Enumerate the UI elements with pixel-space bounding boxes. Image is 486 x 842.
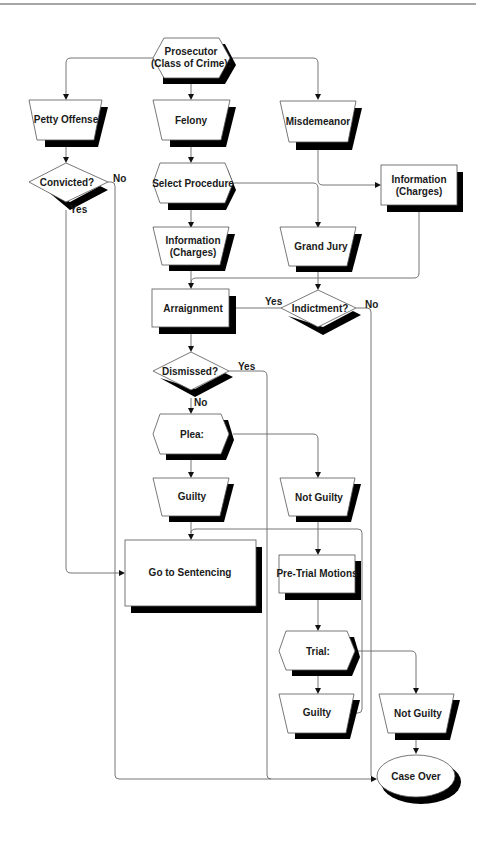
node-trial[interactable]: Trial: xyxy=(279,631,360,676)
node-case-over[interactable]: Case Over xyxy=(377,755,461,804)
edge-plea-notguilty xyxy=(233,434,318,476)
arrowhead xyxy=(188,472,194,478)
arrowhead xyxy=(188,283,194,289)
node-prosecutor[interactable]: Prosecutor (Class of Crime): xyxy=(151,38,236,84)
node-label: Plea: xyxy=(180,429,204,440)
node-label: Guilty xyxy=(178,491,207,502)
node-felony[interactable]: Felony xyxy=(153,100,236,147)
arrowhead xyxy=(375,182,381,188)
edge-label-dismissed-no: No xyxy=(194,397,207,408)
node-label: Arraignment xyxy=(163,303,223,314)
node-label: Information xyxy=(392,174,447,185)
edge-prosecutor-petty xyxy=(66,58,153,98)
arrowhead xyxy=(188,408,194,414)
node-label: Prosecutor xyxy=(165,46,218,57)
node-plea[interactable]: Plea: xyxy=(153,414,234,460)
node-not-guilty-plea[interactable]: Not Guilty xyxy=(280,478,361,522)
arrowhead xyxy=(315,688,321,694)
node-misdemeanor[interactable]: Misdemeanor xyxy=(280,101,362,150)
node-label: Select Procedure xyxy=(152,178,234,189)
node-petty-offense[interactable]: Petty Offense xyxy=(29,100,108,147)
arrowhead xyxy=(315,472,321,478)
node-label: Misdemeanor xyxy=(286,116,351,127)
edge-misdemeanor-inforight xyxy=(318,150,379,185)
flowchart-canvas: Prosecutor (Class of Crime): Petty Offen… xyxy=(0,0,486,842)
node-label: Case Over xyxy=(391,771,441,782)
edge-indictment-caseover xyxy=(356,308,375,779)
node-label: Convicted? xyxy=(40,177,94,188)
edge-prosecutor-misdemeanor xyxy=(230,58,318,98)
edge-label-dismissed-yes: Yes xyxy=(238,361,256,372)
arrowhead xyxy=(371,776,377,782)
arrowhead xyxy=(188,534,194,540)
node-select-procedure[interactable]: Select Procedure xyxy=(152,163,236,210)
node-label: Not Guilty xyxy=(295,492,343,503)
edge-label-convicted-yes: Yes xyxy=(70,204,88,215)
edge-label-indictment-no: No xyxy=(365,299,378,310)
arrowhead xyxy=(315,625,321,631)
node-label: Go to Sentencing xyxy=(149,567,232,578)
node-dismissed[interactable]: Dismissed? xyxy=(153,352,233,397)
arrowhead xyxy=(188,157,194,163)
rectangle-shape xyxy=(381,165,457,205)
arrowhead xyxy=(188,94,194,100)
node-information-right[interactable]: Information (Charges) xyxy=(381,165,463,212)
node-label: Dismissed? xyxy=(162,366,218,377)
node-label: Not Guilty xyxy=(394,708,442,719)
node-label: Indictment? xyxy=(292,303,349,314)
arrowhead xyxy=(413,748,419,754)
node-label: Guilty xyxy=(303,707,332,718)
node-label: Pre-Trial Motions xyxy=(276,568,358,579)
node-arraignment[interactable]: Arraignment xyxy=(152,289,236,334)
edge-label-convicted-no: No xyxy=(113,173,126,184)
node-label: Petty Offense xyxy=(34,114,99,125)
node-label: (Charges) xyxy=(396,186,443,197)
node-not-guilty-trial[interactable]: Not Guilty xyxy=(379,694,460,740)
node-grand-jury[interactable]: Grand Jury xyxy=(280,227,362,272)
node-label: Trial: xyxy=(306,646,330,657)
arrowhead xyxy=(315,549,321,555)
edge-trial-notguilty xyxy=(357,651,416,692)
node-label: Grand Jury xyxy=(294,241,348,252)
node-information-mid[interactable]: Information (Charges) xyxy=(153,227,235,271)
node-pretrial[interactable]: Pre-Trial Motions xyxy=(276,555,361,600)
edge-convicted-sentencing xyxy=(66,210,123,573)
node-convicted[interactable]: Convicted? xyxy=(29,163,108,210)
connectors xyxy=(63,58,419,782)
edge-label-indictment-yes: Yes xyxy=(265,296,283,307)
node-label: Felony xyxy=(175,115,208,126)
arrowhead xyxy=(315,284,321,290)
arrowhead xyxy=(63,94,69,100)
arrowhead xyxy=(63,157,69,163)
node-label: (Charges) xyxy=(170,247,217,258)
node-label: (Class of Crime): xyxy=(151,58,231,69)
arrowhead xyxy=(188,346,194,352)
arrowhead xyxy=(413,688,419,694)
node-guilty-trial[interactable]: Guilty xyxy=(279,694,360,739)
arrowhead xyxy=(315,94,321,100)
node-sentencing[interactable]: Go to Sentencing xyxy=(125,540,262,613)
edge-select-grandjury xyxy=(234,183,318,226)
node-label: Information xyxy=(166,235,221,246)
node-guilty-plea[interactable]: Guilty xyxy=(153,478,234,522)
trapezoid-shape xyxy=(153,227,229,265)
node-indictment[interactable]: Indictment? xyxy=(281,290,361,335)
arrowhead xyxy=(119,570,125,576)
